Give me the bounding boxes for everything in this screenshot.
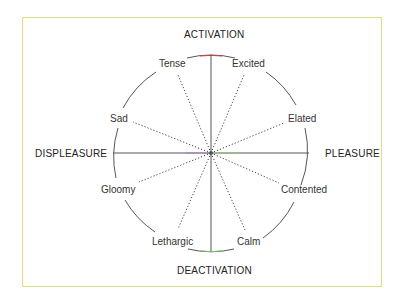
axis-label-activation: ACTIVATION xyxy=(184,29,245,41)
emotion-label-contented: Contented xyxy=(281,184,327,196)
emotion-label-sad: Sad xyxy=(110,113,128,125)
emotion-label-calm: Calm xyxy=(237,236,260,248)
emotion-label-gloomy: Gloomy xyxy=(101,184,135,196)
axis-label-deactivation: DEACTIVATION xyxy=(177,265,252,277)
axis-label-pleasure: PLEASURE xyxy=(325,148,380,160)
emotion-label-lethargic: Lethargic xyxy=(152,236,193,248)
emotion-label-elated: Elated xyxy=(288,113,316,125)
center-point xyxy=(209,151,213,155)
axis-label-displeasure: DISPLEASURE xyxy=(35,148,107,160)
emotion-label-excited: Excited xyxy=(232,58,265,70)
emotion-label-tense: Tense xyxy=(159,58,186,70)
